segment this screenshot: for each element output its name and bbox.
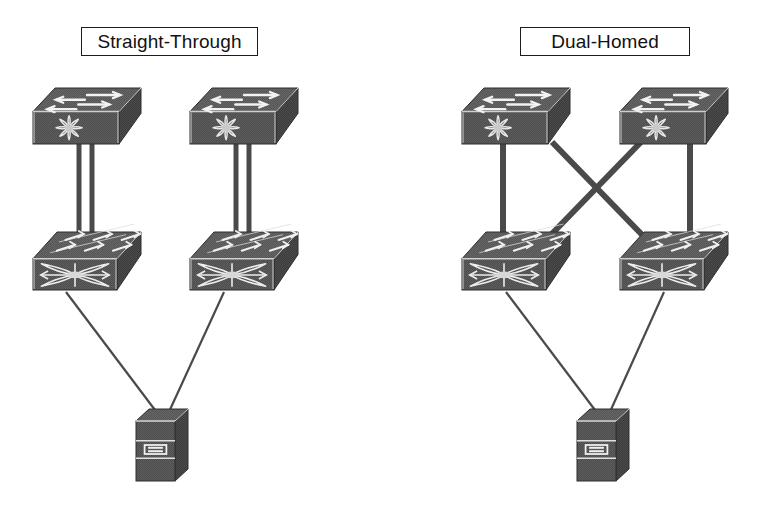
- panel-label-text: Dual-Homed: [551, 32, 659, 51]
- access-link: [168, 292, 224, 414]
- multilayer-switch-icon: [462, 88, 570, 144]
- workgroup-switch-icon: [190, 232, 298, 290]
- multilayer-switch-icon: [620, 88, 728, 144]
- access-link: [609, 292, 664, 414]
- uplink-cross: [543, 142, 641, 243]
- multilayer-switch-icon: [190, 88, 298, 144]
- multilayer-switch-icon: [33, 88, 141, 144]
- server-icon: [577, 409, 629, 481]
- panel-label-straight-through: Straight-Through: [81, 27, 258, 56]
- access-link: [66, 292, 158, 414]
- diagram-canvas: Straight-Through Dual-Homed: [0, 0, 771, 511]
- workgroup-switch-icon: [462, 232, 570, 290]
- server-icon: [136, 409, 188, 481]
- workgroup-switch-icon: [620, 232, 728, 290]
- panel-label-text: Straight-Through: [97, 32, 241, 51]
- workgroup-switch-icon: [33, 232, 141, 290]
- uplink-cross: [552, 142, 650, 243]
- access-link: [506, 292, 598, 414]
- panel-label-dual-homed: Dual-Homed: [520, 27, 690, 56]
